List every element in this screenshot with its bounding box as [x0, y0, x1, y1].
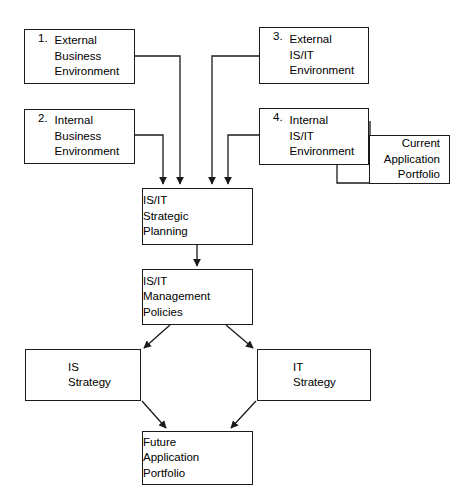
node-label: Internal IS/IT Environment	[290, 113, 368, 160]
connector-is-strategy-to-future-portfolio	[142, 401, 166, 428]
connector-internal-business-to-planning	[134, 135, 163, 184]
node-label: Current Application Portfolio	[384, 136, 440, 183]
node-label: Future Application Portfolio	[143, 435, 252, 482]
node-number: 4.	[260, 109, 290, 126]
node-external-business-environment[interactable]: 1. External Business Environment	[24, 29, 135, 84]
node-label: IS/IT Management Policies	[143, 274, 252, 321]
node-isit-strategic-planning[interactable]: IS/IT Strategic Planning	[142, 188, 253, 245]
node-internal-isit-environment[interactable]: 4. Internal IS/IT Environment	[259, 108, 369, 165]
node-label: Internal Business Environment	[55, 113, 134, 160]
connector-external-isit-to-planning	[212, 56, 260, 184]
node-label: IT Strategy	[258, 360, 370, 391]
node-it-strategy[interactable]: IT Strategy	[257, 349, 371, 401]
connector-external-business-to-planning	[134, 56, 180, 184]
node-label: IS Strategy	[26, 360, 140, 391]
connector-it-strategy-to-future-portfolio	[231, 401, 256, 428]
node-internal-business-environment[interactable]: 2. Internal Business Environment	[24, 109, 135, 164]
node-external-isit-environment[interactable]: 3. External IS/IT Environment	[259, 27, 369, 84]
node-label: IS/IT Strategic Planning	[143, 193, 252, 240]
node-isit-management-policies[interactable]: IS/IT Management Policies	[142, 269, 253, 325]
node-is-strategy[interactable]: IS Strategy	[25, 349, 141, 401]
node-future-application-portfolio[interactable]: Future Application Portfolio	[142, 431, 253, 485]
node-number: 3.	[260, 28, 290, 45]
node-label: External IS/IT Environment	[290, 32, 368, 79]
connector-policies-to-it-strategy	[226, 325, 253, 348]
node-current-application-portfolio[interactable]: Current Application Portfolio	[369, 135, 450, 184]
node-label: External Business Environment	[55, 33, 134, 80]
connector-internal-isit-to-planning	[228, 135, 260, 184]
node-number: 2.	[25, 110, 55, 127]
connector-policies-to-is-strategy	[144, 325, 170, 348]
node-number: 1.	[25, 30, 55, 47]
diagram-canvas: 1. External Business Environment 2. Inte…	[0, 0, 465, 502]
